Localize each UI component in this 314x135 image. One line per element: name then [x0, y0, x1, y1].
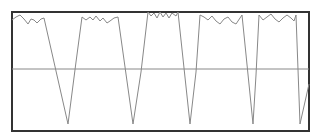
line-chart: [0, 0, 314, 135]
series-line-signal: [12, 12, 309, 124]
